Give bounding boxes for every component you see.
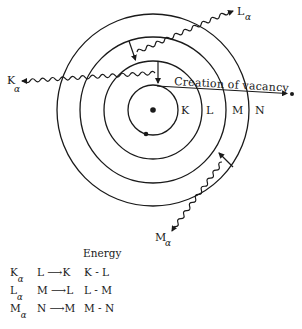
shell-label-m: M (232, 104, 243, 117)
l-alpha-arrow-tip (228, 11, 233, 13)
atom-shell-diagram: K L M N Creation of vacancy K α L α M α (0, 0, 302, 329)
l-alpha-label: L (237, 5, 245, 18)
ejection-caption: Creation of vacancy (174, 75, 290, 95)
l-alpha-subscript: α (245, 12, 251, 22)
l-alpha-photon-wave (136, 11, 229, 54)
shell-label-n: N (255, 104, 265, 117)
transition-arrow-m-to-l (129, 41, 136, 60)
m-alpha-arrow-tip (172, 226, 175, 231)
ejected-electron (290, 92, 294, 96)
k-shell-electron (144, 132, 149, 137)
nucleus (150, 107, 156, 113)
shell-label-l: L (206, 104, 214, 117)
shell-label-k: K (181, 104, 190, 117)
m-alpha-subscript: α (165, 238, 171, 248)
transition-arrow-n-to-m (219, 153, 233, 167)
k-alpha-subscript: α (14, 84, 20, 94)
m-alpha-photon-wave (174, 161, 224, 228)
